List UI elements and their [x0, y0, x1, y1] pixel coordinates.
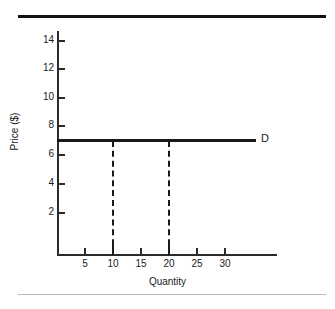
- y-tick-label-2-wrap: 2: [36, 207, 54, 217]
- y-tick-6: [59, 154, 65, 156]
- x-axis-line: [57, 254, 277, 256]
- y-tick-14: [59, 40, 65, 42]
- demand-curve-label: D: [261, 133, 269, 144]
- demand-curve-line: [57, 139, 256, 142]
- y-tick-label-6: 6: [36, 149, 54, 159]
- y-tick-label-8-wrap: 8: [36, 120, 54, 130]
- x-tick-label-30: 30: [213, 259, 237, 269]
- x-axis-title: Quantity: [0, 276, 335, 287]
- y-tick-label-10: 10: [36, 92, 54, 102]
- y-tick-label-4-wrap: 4: [36, 178, 54, 188]
- y-tick-8: [59, 125, 65, 127]
- plot-area: 14 12 10 8 6 4 2 5 10 15: [0, 22, 335, 294]
- x-tick-label-10: 10: [101, 259, 125, 269]
- bottom-divider-rule: [18, 294, 326, 295]
- y-tick-label-4: 4: [36, 178, 54, 188]
- y-tick-label-10-wrap: 10: [36, 92, 54, 102]
- y-tick-label-6-wrap: 6: [36, 149, 54, 159]
- x-tick-label-5: 5: [73, 259, 97, 269]
- y-tick-12: [59, 68, 65, 70]
- y-tick-label-14-wrap: 14: [36, 35, 54, 45]
- dropline-quantity-20: [168, 141, 170, 255]
- x-tick-30: [224, 248, 226, 254]
- y-tick-10: [59, 97, 65, 99]
- y-tick-label-2: 2: [36, 207, 54, 217]
- dropline-quantity-10: [112, 141, 114, 255]
- y-tick-label-8: 8: [36, 120, 54, 130]
- demand-curve-figure: 14 12 10 8 6 4 2 5 10 15: [0, 22, 335, 294]
- top-divider-rule: [18, 15, 326, 18]
- y-axis-title: Price ($): [9, 92, 20, 172]
- x-tick-5: [84, 248, 86, 254]
- y-axis-line: [57, 31, 59, 256]
- x-tick-label-15: 15: [129, 259, 153, 269]
- y-tick-label-12: 12: [36, 63, 54, 73]
- x-tick-25: [196, 248, 198, 254]
- x-tick-label-25: 25: [185, 259, 209, 269]
- y-tick-label-14: 14: [36, 35, 54, 45]
- y-tick-2: [59, 212, 65, 214]
- x-tick-label-20: 20: [157, 259, 181, 269]
- x-tick-15: [140, 248, 142, 254]
- y-tick-label-12-wrap: 12: [36, 63, 54, 73]
- y-tick-4: [59, 183, 65, 185]
